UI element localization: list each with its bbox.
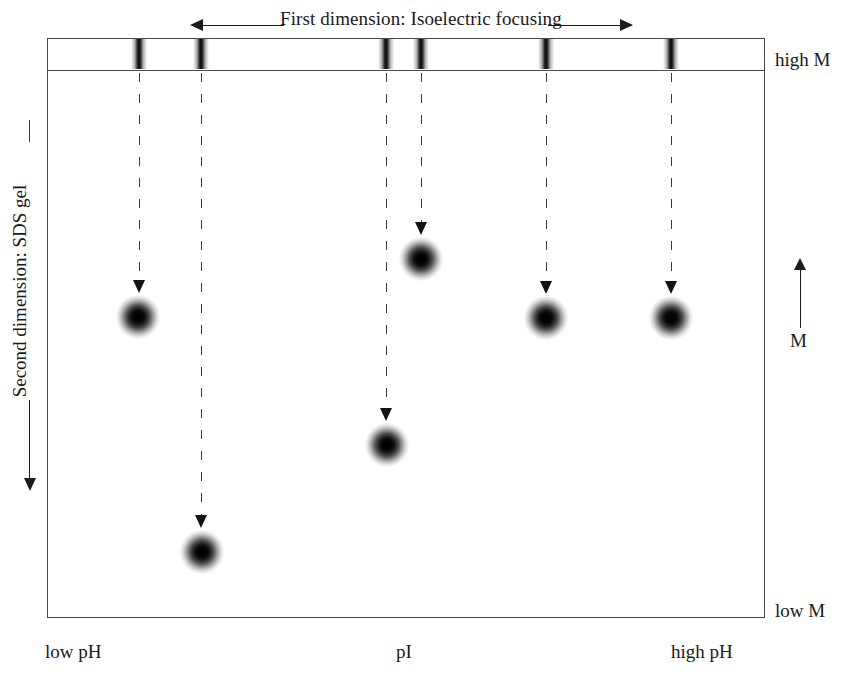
second-dimension-arrow-line [29, 400, 30, 482]
protein-spot [115, 294, 161, 340]
protein-spot [398, 236, 444, 282]
protein-spot [364, 422, 410, 468]
migration-arrow-icon [133, 280, 145, 293]
second-dimension-arrowhead-icon [24, 478, 36, 491]
isoelectric-focusing-strip [48, 39, 764, 71]
migration-track [421, 73, 422, 231]
mass-axis-line [800, 268, 801, 328]
two-dimensional-gel-figure: First dimension: Isoelectric focusing [0, 0, 859, 695]
ief-band [378, 39, 394, 69]
migration-track [139, 73, 140, 289]
low-mass-label: low M [775, 600, 825, 622]
right-arrowhead-icon [620, 19, 633, 31]
migration-arrow-icon [380, 408, 392, 421]
isoelectric-point-label: pI [396, 641, 412, 663]
ief-band [413, 39, 429, 69]
second-dimension-axis: Second dimension: SDS gel [0, 120, 40, 520]
migration-track [671, 73, 672, 290]
migration-arrow-icon [665, 281, 677, 294]
low-ph-label: low pH [45, 641, 101, 663]
migration-track [201, 73, 202, 524]
ief-band [131, 39, 147, 69]
ief-band [193, 39, 209, 69]
high-mass-label: high M [775, 49, 830, 71]
second-dimension-label: Second dimension: SDS gel [9, 121, 31, 461]
protein-spot [523, 295, 569, 341]
gel-plate [47, 38, 765, 618]
protein-spot [179, 529, 225, 575]
protein-spot [648, 295, 694, 341]
first-dimension-axis: First dimension: Isoelectric focusing [0, 6, 859, 34]
ief-band [663, 39, 679, 69]
migration-arrow-icon [540, 281, 552, 294]
first-dimension-left-rule [200, 25, 284, 26]
migration-track [386, 73, 387, 417]
mass-axis-label: M [790, 330, 807, 352]
high-ph-label: high pH [671, 641, 733, 663]
migration-arrow-icon [195, 515, 207, 528]
migration-arrow-icon [415, 222, 427, 235]
first-dimension-label: First dimension: Isoelectric focusing [280, 6, 550, 32]
ief-band [538, 39, 554, 69]
migration-track [546, 73, 547, 290]
